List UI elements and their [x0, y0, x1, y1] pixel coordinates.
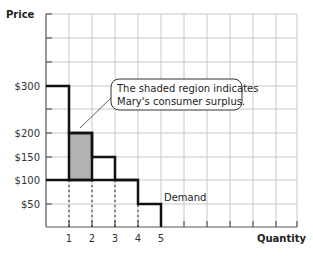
- y-axis-title: Price: [6, 9, 35, 20]
- y-tick-300: $300: [15, 81, 40, 92]
- y-tick-200: $200: [15, 128, 40, 139]
- consumer-surplus-shaded-region: [69, 133, 92, 180]
- x-tick-4: 4: [135, 233, 141, 244]
- consumer-surplus-chart: Price Quantity $300 $200 $150 $100 $50 1…: [0, 0, 313, 256]
- y-tick-100: $100: [15, 175, 40, 186]
- y-tick-150: $150: [15, 152, 40, 163]
- demand-label: Demand: [164, 192, 206, 203]
- x-tick-1: 1: [66, 233, 72, 244]
- callout-leader-line: [80, 97, 112, 128]
- callout-text-line2: Mary's consumer surplus.: [117, 96, 245, 107]
- callout-text-line1: The shaded region indicates: [116, 83, 258, 94]
- x-tick-2: 2: [89, 233, 95, 244]
- y-tick-50: $50: [21, 199, 40, 210]
- x-tick-5: 5: [158, 233, 164, 244]
- x-tick-3: 3: [112, 233, 118, 244]
- x-axis-title: Quantity: [257, 233, 306, 244]
